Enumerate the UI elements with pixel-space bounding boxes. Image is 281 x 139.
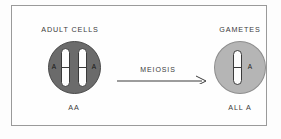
gametes-heading: GAMETES <box>205 25 275 34</box>
gamete-chromosome-1-centromere <box>233 67 242 68</box>
meiosis-arrow-icon <box>116 73 210 84</box>
adult-chromosome-2-centromere <box>78 67 87 68</box>
adult-allele-label-left: A <box>49 64 59 71</box>
adult-genotype-label: AA <box>44 103 104 112</box>
adult-chromosome-1-centromere <box>61 67 70 68</box>
diagram-frame: ADULT CELLS A A AA MEIOSIS GAMETES A ALL… <box>11 5 267 126</box>
adult-cells-heading: ADULT CELLS <box>34 25 106 34</box>
gamete-genotype-label: ALL A <box>210 103 270 112</box>
meiosis-diagram: ADULT CELLS A A AA MEIOSIS GAMETES A ALL… <box>0 0 281 139</box>
gamete-allele-label: A <box>245 64 255 71</box>
meiosis-label: MEIOSIS <box>116 66 200 73</box>
meiosis-arrow-group: MEIOSIS <box>116 66 210 84</box>
adult-allele-label-right: A <box>89 64 99 71</box>
